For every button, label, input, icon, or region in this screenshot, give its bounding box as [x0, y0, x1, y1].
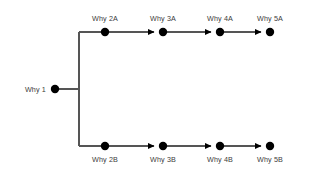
node-why-5b[interactable]: [266, 142, 274, 150]
diagram-canvas: Why 1Why 2AWhy 3AWhy 4AWhy 5AWhy 2BWhy 3…: [0, 0, 323, 178]
node-why-3a[interactable]: [159, 28, 167, 36]
label-why-5a: Why 5A: [257, 14, 283, 23]
node-group: [51, 28, 274, 150]
node-why-5a[interactable]: [266, 28, 274, 36]
five-whys-diagram: [0, 0, 323, 178]
label-why-1: Why 1: [25, 85, 46, 94]
node-why-2b[interactable]: [101, 142, 109, 150]
node-why-2a[interactable]: [101, 28, 109, 36]
node-why-1[interactable]: [51, 85, 59, 93]
label-why-3b: Why 3B: [150, 155, 176, 164]
label-why-4a: Why 4A: [207, 14, 233, 23]
label-why-5b: Why 5B: [257, 155, 283, 164]
label-why-3a: Why 3A: [150, 14, 176, 23]
node-why-4b[interactable]: [216, 142, 224, 150]
node-why-3b[interactable]: [159, 142, 167, 150]
label-why-2b: Why 2B: [92, 155, 118, 164]
edge-group: [59, 32, 261, 146]
node-why-4a[interactable]: [216, 28, 224, 36]
label-why-2a: Why 2A: [92, 14, 118, 23]
label-why-4b: Why 4B: [207, 155, 233, 164]
